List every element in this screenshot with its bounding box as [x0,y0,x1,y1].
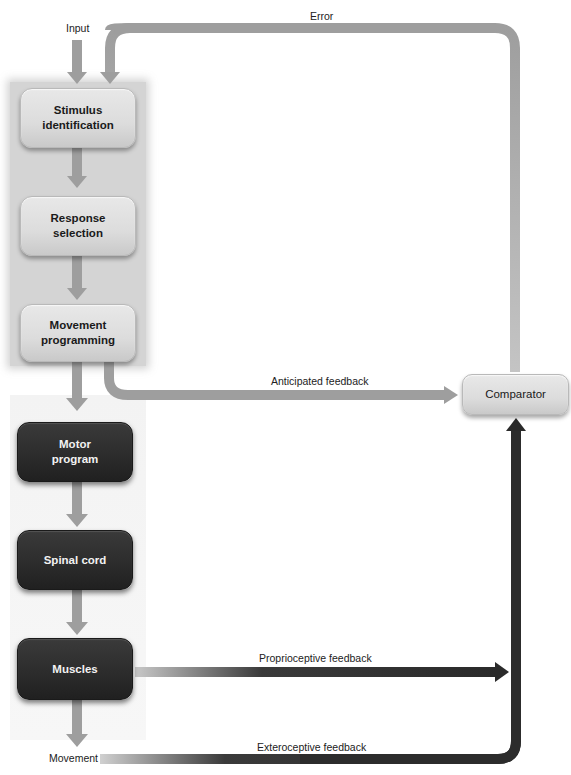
motor-to-spinal-arrow [66,482,88,527]
muscles-to-movement-arrow [66,700,88,747]
exteroceptive-feedback-arrow [100,418,526,759]
input-arrow [67,40,87,84]
movement-programming-box: Movementprogramming [20,304,136,362]
box-label: Spinal cord [44,553,107,568]
spinal-cord-box: Spinal cord [17,530,133,590]
programming-to-motor-arrow [66,362,88,411]
proprioceptive-feedback-arrow [135,662,509,682]
input-label: Input [66,22,89,34]
comparator-box: Comparator [462,374,569,415]
box-label: programming [41,333,115,348]
box-label: identification [42,118,114,133]
error-label: Error [310,10,333,22]
box-label: Motor [52,437,99,452]
proprioceptive-feedback-label: Proprioceptive feedback [259,652,372,664]
box-label: program [52,452,99,467]
box-label: Movement [41,318,115,333]
error-feedback-arrow [100,28,515,372]
box-label: Comparator [485,387,546,402]
stimulus-to-response-arrow [67,148,87,188]
motor-program-box: Motorprogram [17,422,133,482]
exteroceptive-feedback-label: Exteroceptive feedback [257,741,366,753]
box-label: Stimulus [42,103,114,118]
spinal-to-muscles-arrow [66,590,88,635]
box-label: Response [51,211,106,226]
anticipated-feedback-label: Anticipated feedback [271,375,368,387]
movement-label: Movement [49,752,98,764]
muscles-box: Muscles [17,638,133,700]
response-to-programming-arrow [67,256,87,300]
stimulus-identification-box: Stimulusidentification [20,88,136,148]
box-label: Muscles [52,662,97,677]
response-selection-box: Responseselection [20,196,136,256]
box-label: selection [51,226,106,241]
